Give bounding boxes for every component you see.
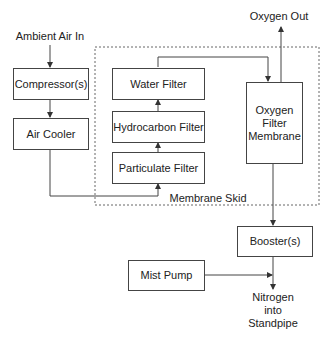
compressor-label: Compressor(s) <box>15 78 88 91</box>
air-cooler-node: Air Cooler <box>13 118 89 150</box>
nitrogen-line-2: into <box>264 304 282 317</box>
hydrocarbon-filter-node: Hydrocarbon Filter <box>112 111 205 143</box>
air-cooler-label: Air Cooler <box>27 128 76 141</box>
ambient-air-in-label: Ambient Air In <box>10 30 90 43</box>
hydrocarbon-filter-label: Hydrocarbon Filter <box>113 121 203 134</box>
nitrogen-output-label: Nitrogen into Standpipe <box>238 291 308 330</box>
mist-pump-label: Mist Pump <box>141 269 193 282</box>
membrane-label-line-1: Oxygen <box>256 104 294 117</box>
membrane-label-line-2: Filter <box>262 117 286 130</box>
water-filter-label: Water Filter <box>130 78 186 91</box>
membrane-label-line-3: Membrane <box>248 130 301 143</box>
particulate-filter-label: Particulate Filter <box>119 162 198 175</box>
booster-node: Booster(s) <box>237 226 313 257</box>
compressor-node: Compressor(s) <box>13 68 89 100</box>
oxygen-filter-membrane-node: Oxygen Filter Membrane <box>246 82 303 164</box>
membrane-skid-label: Membrane Skid <box>168 192 248 205</box>
particulate-filter-node: Particulate Filter <box>112 152 205 184</box>
water-filter-node: Water Filter <box>112 68 205 100</box>
nitrogen-line-3: Standpipe <box>248 317 298 330</box>
oxygen-out-label: Oxygen Out <box>244 10 314 23</box>
mist-pump-node: Mist Pump <box>128 260 205 291</box>
nitrogen-line-1: Nitrogen <box>252 291 294 304</box>
booster-label: Booster(s) <box>250 235 301 248</box>
